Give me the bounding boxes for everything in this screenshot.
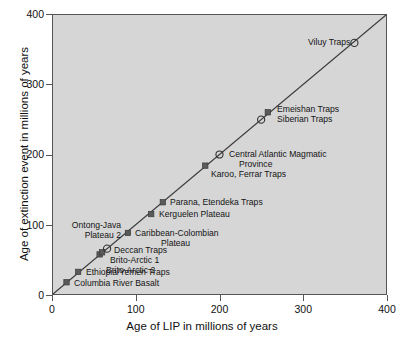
marker-caribbean-colombian-plateau[interactable] xyxy=(125,230,130,235)
marker-siberian-traps[interactable] xyxy=(258,116,265,123)
marker-central-atlantic-magmatic-province[interactable] xyxy=(216,151,223,158)
annotation-columbia-river-basalt: Columbia River Basalt xyxy=(74,279,159,289)
x-tick-mark-200 xyxy=(220,295,221,301)
annotation-ontong-java-line2: Plateau 2 xyxy=(49,231,121,241)
marker-karoo-ferrar-traps[interactable] xyxy=(203,163,208,168)
x-tick-label-300: 300 xyxy=(283,303,323,315)
plot-area: Viluy Traps Emeishan Traps Siberian Trap… xyxy=(52,14,387,295)
annotation-siberian-traps: Siberian Traps xyxy=(277,115,332,125)
marker-emeishan-traps[interactable] xyxy=(265,110,270,115)
x-tick-mark-0 xyxy=(52,295,53,301)
scatter-chart-figure: 400 300 200 100 0 0 100 200 300 400 xyxy=(0,0,404,341)
marker-parana-etendeka-traps[interactable] xyxy=(160,200,165,205)
marker-columbia-river-basalt[interactable] xyxy=(64,280,69,285)
x-tick-label-200: 200 xyxy=(200,303,240,315)
annotation-parana-etendeka-traps: Parana, Etendeka Traps xyxy=(170,198,263,208)
annotation-kerguelen-plateau: Kerguelen Plateau xyxy=(159,210,230,220)
x-tick-mark-400 xyxy=(387,295,388,301)
marker-deccan-traps[interactable] xyxy=(103,245,110,252)
x-tick-mark-300 xyxy=(303,295,304,301)
x-tick-label-0: 0 xyxy=(32,303,72,315)
x-tick-label-100: 100 xyxy=(116,303,156,315)
marker-layer xyxy=(53,15,386,294)
annotation-ethiopia-yemen-traps: Ethiopia/Yemen Traps xyxy=(86,268,170,278)
marker-ethiopia-yemen-traps[interactable] xyxy=(75,269,80,274)
annotation-viluy-traps: Viluy Traps xyxy=(308,38,350,48)
x-tick-label-400: 400 xyxy=(367,303,404,315)
marker-kerguelen-plateau[interactable] xyxy=(149,211,154,216)
annotation-karoo-ferrar-traps: Karoo, Ferrar Traps xyxy=(211,170,286,180)
x-tick-mark-100 xyxy=(136,295,137,301)
marker-viluy-traps[interactable] xyxy=(351,39,358,46)
y-axis-title: Age of extinction event in millions of y… xyxy=(18,9,30,299)
x-axis-title: Age of LIP in millions of years xyxy=(0,320,404,332)
